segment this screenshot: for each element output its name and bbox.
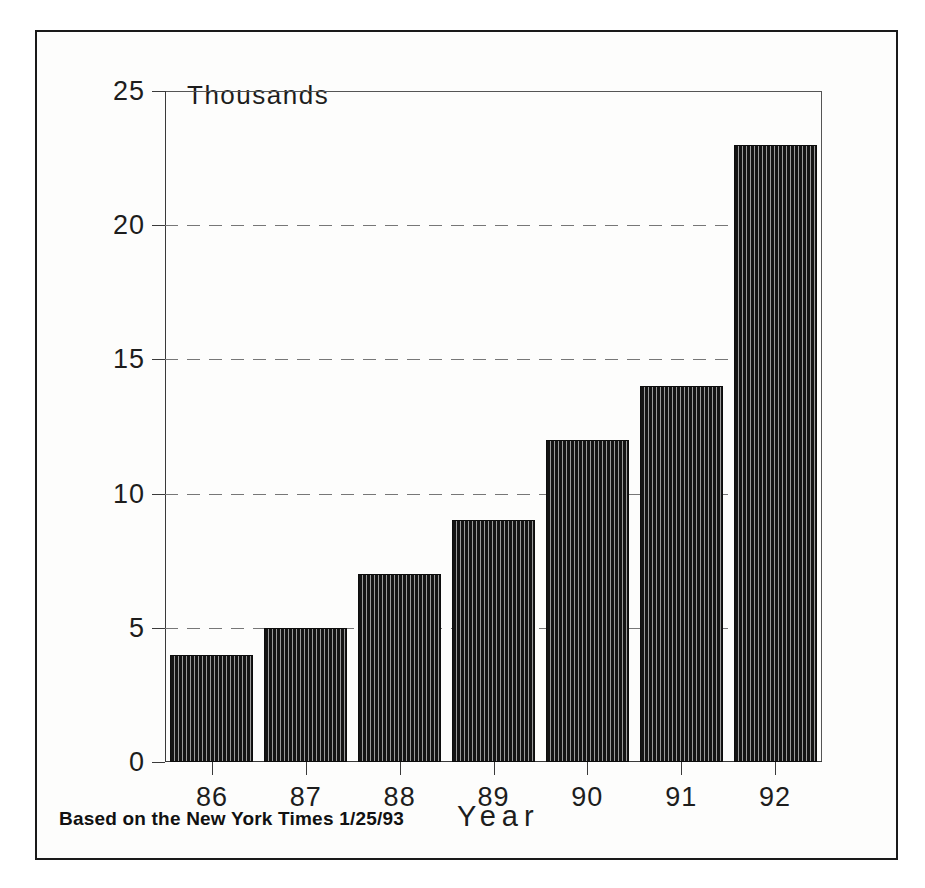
y-axis-tick [152,91,165,92]
gridline [165,225,822,226]
bar [358,574,441,762]
y-axis-line [165,91,166,762]
x-axis-tick [681,762,682,775]
y-axis-tick-label: 20 [113,210,145,241]
x-axis-title: Year [457,800,540,833]
bar [640,386,723,762]
x-axis-tick [775,762,776,775]
plot-area: 0510152025 86878889909192 [165,91,822,762]
y-axis-tick [152,762,165,763]
x-axis-tick [587,762,588,775]
x-axis-tick-label: 92 [759,782,791,813]
x-axis-tick [494,762,495,775]
bar [170,655,253,762]
bar [546,440,629,762]
x-axis-tick [212,762,213,775]
x-axis-tick-label: 91 [665,782,697,813]
y-axis-tick-label: 5 [129,612,145,643]
bar [452,520,535,762]
bar [734,145,817,762]
y-axis-tick [152,359,165,360]
source-note: Based on the New York Times 1/25/93 [59,808,404,830]
bar [264,628,347,762]
plot-right-border [821,91,822,762]
x-axis-tick [306,762,307,775]
y-axis-tick [152,225,165,226]
y-axis-tick-label: 15 [113,344,145,375]
plot-top-border [165,91,822,92]
y-axis-tick-label: 25 [113,76,145,107]
y-axis-tick-label: 0 [129,747,145,778]
y-axis-tick-label: 10 [113,478,145,509]
y-axis-tick [152,628,165,629]
chart-frame: Thousands 0510152025 86878889909192 Year… [35,30,898,860]
x-axis-tick [400,762,401,775]
gridline [165,359,822,360]
y-axis-tick [152,494,165,495]
x-axis-tick-label: 90 [571,782,603,813]
gridline [165,494,822,495]
